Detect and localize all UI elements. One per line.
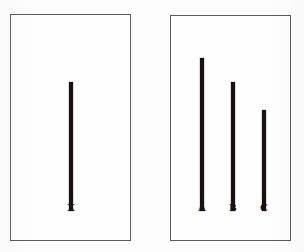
line-group-x: X — [59, 13, 83, 240]
line-label-c: C — [260, 202, 268, 213]
line-label-b: B — [229, 202, 237, 213]
line-group-b: B — [221, 14, 245, 240]
line-group-a: A — [190, 14, 214, 240]
line-bar-c — [262, 110, 266, 211]
line-group-c: C — [252, 14, 276, 240]
comparison-panel-inner: A B C — [171, 16, 290, 240]
comparison-lines-panel: A B C — [170, 15, 291, 241]
standard-line-panel: X — [10, 14, 131, 241]
standard-panel-inner: X — [11, 15, 130, 240]
line-label-x: X — [67, 202, 75, 213]
line-label-a: A — [198, 202, 206, 213]
line-bar-a — [200, 58, 204, 211]
line-judgment-figure: X A B C — [0, 0, 304, 252]
line-bar-x — [69, 82, 73, 211]
line-bar-b — [231, 82, 235, 211]
